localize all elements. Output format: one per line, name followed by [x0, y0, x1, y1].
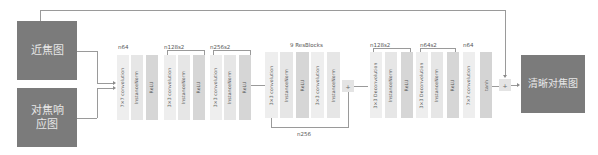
resblock-instancenorm-block: InstanceNorm [327, 52, 340, 118]
decoder-tanh-block: tanh [480, 52, 492, 118]
resblock-to-decoder-line [354, 86, 368, 87]
output-clear-focus-image: 清晰对焦图 [521, 55, 585, 113]
decoder-to-add-line [492, 86, 499, 87]
decoder-deconv3x3-block: 3×3 Deconvolution [370, 52, 382, 118]
resblock-conv3x3-block: 3×3 convolution [265, 52, 278, 118]
resblock-skip-line-bottom [271, 127, 349, 128]
resblock-skip-line-right [348, 92, 349, 127]
input1-arrowhead [113, 81, 116, 85]
resblock-add-node: + [342, 80, 354, 92]
resblock-relu-block: ReLU [296, 52, 309, 118]
encoder-conv7x7-block: 7×7 convolution [117, 55, 129, 120]
input1-connector-in [97, 83, 114, 84]
final-add-node: + [499, 79, 511, 91]
global-skip-line-top [40, 10, 506, 11]
output-arrowhead [517, 83, 520, 87]
encoder-instancenorm-block: InstanceNorm [224, 55, 236, 120]
resblock-conv3x3-block: 3×3 convolution [311, 52, 324, 118]
global-skip-line-up [40, 10, 41, 21]
decoder-stage3-label: n64 [463, 42, 473, 48]
decoder-conv7x7-block: 7×7 convolution [463, 52, 475, 118]
input2-arrowhead [113, 86, 116, 90]
encoder-conv3x3-block: 3×3 convolution [164, 55, 176, 120]
input1-connector-h [77, 51, 97, 52]
input-focus-response-label: 对焦响应图 [27, 104, 67, 132]
encoder-stage1-label: n64 [118, 44, 128, 50]
input2-connector-h [77, 118, 97, 119]
resblock-skip-line-left [271, 118, 272, 127]
global-skip-arrowhead [503, 75, 507, 78]
input-focus-response-image: 对焦响应图 [17, 88, 77, 147]
add-icon: + [345, 83, 350, 90]
encoder-instancenorm-block: InstanceNorm [131, 55, 143, 120]
input-near-focus-label: 近焦图 [31, 44, 64, 58]
resblock-instancenorm-block: InstanceNorm [280, 52, 293, 118]
output-label: 清晰对焦图 [528, 77, 578, 91]
encoder-relu-block: ReLU [193, 55, 205, 120]
decoder-deconv3x3-block: 3×3 Deconvolution [416, 52, 428, 118]
resblock-skip-label: n256 [297, 131, 311, 137]
input2-connector-in [97, 88, 114, 89]
global-skip-line-down [505, 10, 506, 76]
encoder-relu-block: ReLU [146, 55, 158, 120]
decoder-relu-block: ReLU [447, 52, 459, 118]
decoder-instancenorm-block: InstanceNorm [385, 52, 397, 118]
decoder-instancenorm-block: InstanceNorm [431, 52, 443, 118]
input1-connector-v [97, 51, 98, 83]
input2-connector-v [97, 88, 98, 118]
encoder-to-resblock-line [251, 85, 265, 86]
encoder-conv3x3-block: 3×3 convolution [210, 55, 222, 120]
add-icon: + [502, 82, 507, 89]
input-near-focus-image: 近焦图 [17, 21, 77, 80]
decoder-relu-block: ReLU [401, 52, 413, 118]
encoder-relu-block: ReLU [239, 55, 251, 120]
resblock-label: 9 ResBlocks [290, 42, 323, 48]
encoder-instancenorm-block: InstanceNorm [178, 55, 190, 120]
